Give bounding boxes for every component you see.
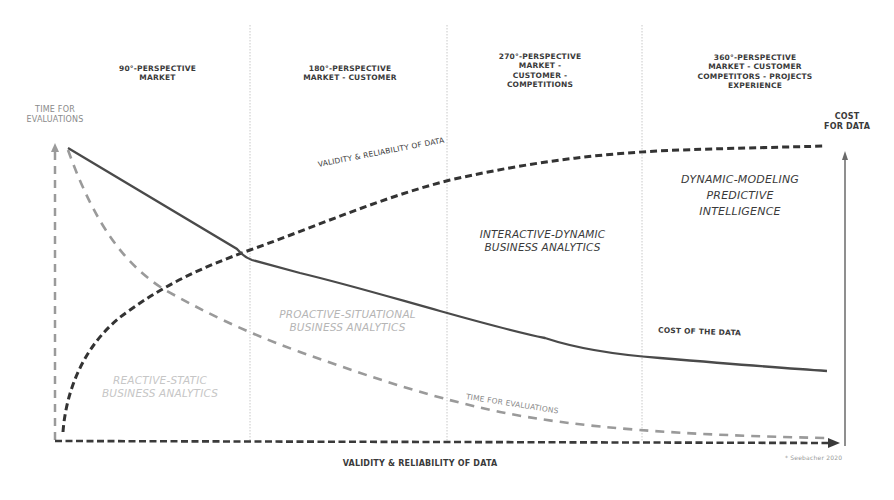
perspective-title: 270°-Perspective (475, 52, 605, 61)
zone-label-line: Reactive-Static (75, 374, 245, 387)
zone-label-line: Interactive-Dynamic (460, 228, 625, 241)
zone-interactive-dynamic: Interactive-Dynamic Business Analytics (460, 228, 625, 254)
credit-note: * Seebacher 2020 (785, 454, 842, 462)
arrow-up-icon (51, 143, 59, 152)
zone-label-line: Dynamic-Modeling (665, 172, 815, 188)
left-axis (51, 143, 59, 440)
perspective-subtitle: Competitors - Projects (670, 72, 840, 81)
perspective-180-label: 180°-Perspective Market - Customer (270, 64, 430, 83)
perspective-subtitle: Market - Customer (670, 62, 840, 71)
perspective-270-label: 270°-Perspective Market - Customer - Com… (475, 52, 605, 90)
zone-label-line: Business Analytics (460, 241, 625, 254)
perspective-subtitle: Competitions (475, 80, 605, 89)
zone-label-line: Intelligence (665, 204, 815, 220)
axis-label-line: Evaluations (10, 115, 100, 125)
arrow-right-icon (828, 438, 840, 448)
zone-label-line: Business Analytics (75, 387, 245, 400)
perspective-90-label: 90°-Perspective Market (100, 64, 215, 83)
perspective-title: 360°-Perspective (670, 53, 840, 62)
right-axis (842, 151, 848, 446)
perspective-360-label: 360°-Perspective Market - Customer Compe… (670, 53, 840, 91)
left-axis-label: Time for Evaluations (10, 105, 100, 125)
zone-proactive-situational: Proactive-Situational Business Analytics (260, 308, 435, 334)
zone-label-line: Proactive-Situational (260, 308, 435, 321)
axis-label-line: for Data (812, 122, 882, 132)
zone-dynamic-modeling: Dynamic-Modeling Predictive Intelligence (665, 172, 815, 220)
axis-label-text: Validity & Reliability of Data (343, 459, 498, 468)
perspective-subtitle: Experience (670, 81, 840, 90)
perspective-subtitle: Market (100, 73, 215, 82)
perspective-subtitle: Market - (475, 61, 605, 70)
credit-text: * Seebacher 2020 (785, 454, 842, 461)
perspective-title: 180°-Perspective (270, 64, 430, 73)
perspective-title: 90°-Perspective (100, 64, 215, 73)
perspective-subtitle: Market - Customer (270, 73, 430, 82)
axis-label-line: Time for (10, 105, 100, 115)
perspective-subtitle: Customer - (475, 71, 605, 80)
bottom-axis-label: Validity & Reliability of Data (330, 459, 510, 469)
zone-label-line: Business Analytics (260, 321, 435, 334)
right-axis-label: Cost for Data (812, 112, 882, 132)
arrow-up-icon (842, 151, 848, 160)
zone-reactive-static: Reactive-Static Business Analytics (75, 374, 245, 400)
axis-label-line: Cost (812, 112, 882, 122)
zone-label-line: Predictive (665, 188, 815, 204)
